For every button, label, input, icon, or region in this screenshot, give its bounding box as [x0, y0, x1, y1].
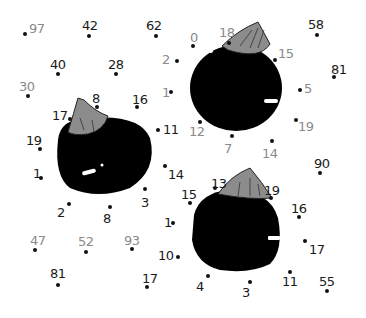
dot-number-label: 47 — [30, 234, 46, 247]
dot-number-label: 81 — [331, 63, 347, 76]
dot-number-label: 55 — [319, 275, 335, 288]
dot-marker[interactable] — [154, 34, 158, 38]
dot-number-label: 40 — [50, 58, 66, 71]
dot-number-label: 14 — [262, 147, 278, 160]
dot-marker[interactable] — [176, 255, 180, 259]
dot-number-label: 12 — [189, 125, 205, 138]
dot-number-label: 2 — [162, 53, 170, 66]
dot-number-label: 11 — [163, 123, 179, 136]
dot-marker[interactable] — [84, 250, 88, 254]
dot-marker[interactable] — [56, 283, 60, 287]
dot-number-label: 10 — [158, 249, 174, 262]
dot-number-label: 4 — [196, 280, 204, 293]
dot-number-label: 93 — [124, 234, 140, 247]
dot-marker[interactable] — [325, 289, 329, 293]
dot-number-label: 17 — [309, 243, 325, 256]
dot-number-label: 17 — [52, 109, 68, 122]
dot-marker[interactable] — [56, 72, 60, 76]
dot-marker[interactable] — [318, 171, 322, 175]
dot-marker[interactable] — [230, 134, 234, 138]
dot-number-label: 3 — [141, 196, 149, 209]
dot-number-label: 90 — [314, 157, 330, 170]
dot-number-label: 81 — [50, 267, 66, 280]
dot-marker[interactable] — [270, 139, 274, 143]
dot-number-label: 16 — [291, 202, 307, 215]
dot-number-label: 13 — [211, 177, 227, 190]
dot-marker[interactable] — [87, 34, 91, 38]
dot-number-label: 2 — [57, 206, 65, 219]
dot-number-label: 19 — [298, 120, 314, 133]
dot-number-label: 30 — [19, 80, 35, 93]
dot-marker[interactable] — [315, 33, 319, 37]
dot-marker[interactable] — [206, 274, 210, 278]
dot-marker[interactable] — [298, 88, 302, 92]
dot-marker[interactable] — [248, 280, 252, 284]
dot-number-label: 28 — [108, 58, 124, 71]
dot-marker[interactable] — [67, 202, 71, 206]
dot-marker[interactable] — [175, 59, 179, 63]
dot-number-label: 3 — [242, 286, 250, 299]
dot-marker[interactable] — [108, 205, 112, 209]
dot-number-label: 11 — [282, 275, 298, 288]
dot-marker[interactable] — [26, 94, 30, 98]
dot-number-label: 58 — [308, 18, 324, 31]
dot-to-dot-canvas: 9742624028308161719111143281154752931081… — [0, 0, 366, 318]
dot-marker[interactable] — [227, 41, 231, 45]
dot-number-label: 42 — [82, 19, 98, 32]
dot-number-label: 19 — [264, 184, 280, 197]
dot-number-label: 0 — [190, 31, 198, 44]
eggplant-top-right — [190, 22, 282, 131]
dot-marker[interactable] — [33, 248, 37, 252]
dot-number-label: 17 — [142, 272, 158, 285]
dot-marker[interactable] — [114, 72, 118, 76]
dot-number-label: 16 — [132, 93, 148, 106]
dot-number-label: 8 — [92, 92, 100, 105]
dot-marker[interactable] — [68, 117, 72, 121]
dot-marker[interactable] — [163, 164, 167, 168]
dot-number-label: 14 — [168, 168, 184, 181]
dot-number-label: 1 — [164, 216, 172, 229]
dot-marker[interactable] — [303, 239, 307, 243]
dot-number-label: 18 — [219, 26, 235, 39]
eggplant-left — [57, 98, 152, 194]
dot-number-label: 19 — [26, 134, 42, 147]
dot-marker[interactable] — [156, 128, 160, 132]
dot-number-label: 1 — [33, 167, 41, 180]
dot-number-label: 5 — [304, 82, 312, 95]
dot-marker[interactable] — [273, 58, 277, 62]
dot-marker[interactable] — [143, 187, 147, 191]
dot-number-label: 15 — [181, 188, 197, 201]
dot-number-label: 7 — [224, 142, 232, 155]
dot-number-label: 52 — [78, 235, 94, 248]
dot-number-label: 62 — [146, 19, 162, 32]
dot-number-label: 15 — [278, 47, 294, 60]
dot-marker[interactable] — [23, 32, 27, 36]
dot-number-label: 8 — [103, 212, 111, 225]
dot-number-label: 1 — [162, 86, 170, 99]
dot-number-label: 97 — [29, 22, 45, 35]
